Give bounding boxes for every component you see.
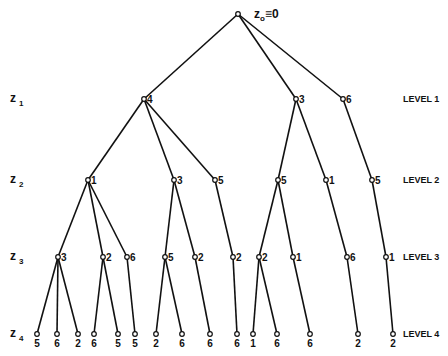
node-value-label: 6 xyxy=(130,252,136,263)
tree-edge xyxy=(259,257,277,334)
level-name-label: LEVEL 3 xyxy=(403,252,439,262)
tree-node xyxy=(101,255,106,260)
tree-edge xyxy=(238,14,296,99)
tree-node xyxy=(391,332,396,337)
tree-edge xyxy=(215,180,233,257)
tree-edge xyxy=(88,99,144,180)
node-value-label: 2 xyxy=(106,252,112,263)
tree-node xyxy=(163,255,168,260)
tree-node xyxy=(154,332,159,337)
tree-edge xyxy=(37,257,58,334)
node-value-label: 1 xyxy=(91,175,97,186)
node-value-label: 6 xyxy=(54,338,60,349)
tree-node xyxy=(86,178,91,183)
tree-node xyxy=(213,178,218,183)
tree-edge xyxy=(347,257,358,334)
tree-node xyxy=(236,12,241,17)
node-value-label: 6 xyxy=(91,338,97,349)
node-value-label: 5 xyxy=(281,175,287,186)
tree-node xyxy=(251,332,256,337)
tree-node xyxy=(55,332,60,337)
tree-edge xyxy=(372,180,386,257)
tree-node xyxy=(324,178,329,183)
tree-node xyxy=(370,178,375,183)
tree-node xyxy=(116,332,121,337)
tree-edge xyxy=(88,180,103,257)
tree-node xyxy=(92,332,97,337)
tree-node xyxy=(76,332,81,337)
tree-edge xyxy=(259,180,278,257)
tree-edge xyxy=(127,257,135,334)
tree-edge xyxy=(165,257,182,334)
tree-node xyxy=(276,178,281,183)
node-value-label: 2 xyxy=(75,338,81,349)
level-variable-label: z2 xyxy=(10,172,24,189)
tree-node xyxy=(235,332,240,337)
tree-edge xyxy=(144,99,174,180)
node-value-label: 5 xyxy=(132,338,138,349)
node-value-label: 3 xyxy=(177,175,183,186)
tree-edge xyxy=(233,257,237,334)
tree-edge xyxy=(278,99,296,180)
level-name-label: LEVEL 4 xyxy=(403,329,439,339)
tree-node xyxy=(308,332,313,337)
node-value-label: 5 xyxy=(218,175,224,186)
tree-edge xyxy=(326,180,347,257)
node-value-label: 1 xyxy=(296,252,302,263)
tree-edge xyxy=(253,257,259,334)
node-value-label: 2 xyxy=(390,338,396,349)
tree-node xyxy=(356,332,361,337)
level-variable-label: z1 xyxy=(10,91,24,108)
node-value-label: 6 xyxy=(274,338,280,349)
tree-node xyxy=(294,97,299,102)
tree-edge xyxy=(174,180,195,257)
node-value-label: 1 xyxy=(250,338,256,349)
tree-edge xyxy=(103,257,118,334)
tree-edge xyxy=(156,257,165,334)
tree-edge xyxy=(165,180,174,257)
tree-node xyxy=(341,97,346,102)
tree-edges xyxy=(37,14,393,334)
tree-edge xyxy=(58,180,88,257)
tree-nodes xyxy=(35,12,396,337)
tree-node xyxy=(142,97,147,102)
tree-diagram: 4361355153265222161562655266616622zo≡0 z… xyxy=(0,0,448,356)
node-value-label: 6 xyxy=(207,338,213,349)
node-value-label: 6 xyxy=(307,338,313,349)
tree-edge xyxy=(238,14,343,99)
tree-node xyxy=(345,255,350,260)
tree-node xyxy=(257,255,262,260)
tree-node xyxy=(193,255,198,260)
node-value-label: 3 xyxy=(299,94,305,105)
tree-edge xyxy=(57,257,58,334)
node-value-label: 2 xyxy=(262,252,268,263)
tree-edge xyxy=(88,180,127,257)
tree-node xyxy=(56,255,61,260)
tree-node xyxy=(208,332,213,337)
tree-edge xyxy=(278,180,293,257)
level-variable-label: z4 xyxy=(10,326,24,343)
node-value-label: 6 xyxy=(234,338,240,349)
node-value-label: 5 xyxy=(168,252,174,263)
tree-edge xyxy=(296,99,326,180)
tree-node xyxy=(291,255,296,260)
node-value-label: 1 xyxy=(329,175,335,186)
tree-edge xyxy=(94,257,103,334)
tree-edge xyxy=(144,14,238,99)
tree-edge xyxy=(58,257,78,334)
tree-node xyxy=(275,332,280,337)
node-value-label: 5 xyxy=(115,338,121,349)
node-value-label: 6 xyxy=(346,94,352,105)
node-value-label: 2 xyxy=(198,252,204,263)
tree-node xyxy=(231,255,236,260)
tree-node xyxy=(125,255,130,260)
node-value-label: 5 xyxy=(375,175,381,186)
level-name-label: LEVEL 1 xyxy=(403,94,439,104)
tree-node xyxy=(172,178,177,183)
node-value-label: 5 xyxy=(34,338,40,349)
node-value-label: 4 xyxy=(147,94,153,105)
tree-edge xyxy=(195,257,210,334)
node-value-label: 6 xyxy=(350,252,356,263)
tree-node xyxy=(384,255,389,260)
tree-edge xyxy=(293,257,310,334)
